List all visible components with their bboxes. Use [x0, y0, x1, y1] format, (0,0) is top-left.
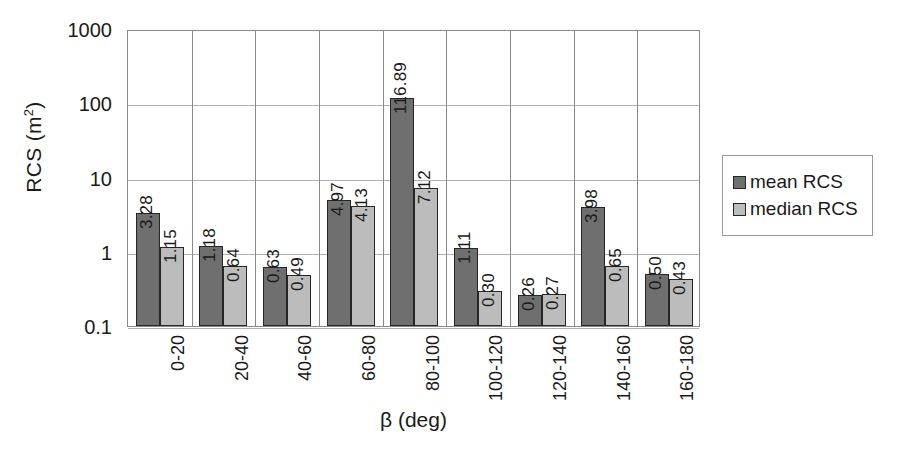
legend-label-median-rcs: median RCS: [750, 198, 858, 220]
bar-mean: [327, 200, 351, 326]
y-axis-tick-label: 0.1: [84, 316, 112, 339]
bar-value-label: 3.98: [582, 189, 602, 223]
x-axis-tick-labels: 0-2020-4040-6060-8080-100100-120120-1401…: [127, 327, 700, 407]
category-group: 1.110.30: [446, 31, 510, 326]
category-group: 116.897.12: [383, 31, 447, 326]
legend-swatch-median-rcs: [733, 203, 746, 216]
y-axis-tick-label: 100: [79, 93, 112, 116]
bar-value-label: 1.11: [455, 232, 475, 265]
bar-value-label: 0.49: [288, 257, 308, 291]
bar-value-label: 7.12: [415, 171, 435, 205]
y-axis-tick-label: 1: [101, 241, 112, 264]
x-axis-tick-label: 140-160: [614, 335, 635, 401]
x-axis-tick-label: 40-60: [295, 335, 316, 381]
bar-value-label: 4.97: [328, 182, 348, 216]
bar-value-label: 116.89: [391, 62, 411, 114]
x-axis-tick-label: 160-180: [677, 335, 698, 401]
legend: mean RCS median RCS: [722, 155, 873, 236]
y-axis-tick-labels: 10001001010.1: [32, 30, 120, 327]
x-axis-title: β (deg): [127, 408, 700, 432]
bar-value-label: 1.18: [200, 229, 220, 263]
bar-value-label: 0.65: [606, 248, 626, 282]
category-group: 0.500.43: [637, 31, 701, 326]
bar-mean: [136, 213, 160, 326]
category-group: 0.630.49: [255, 31, 319, 326]
legend-item-median-rcs[interactable]: median RCS: [733, 198, 858, 220]
legend-item-mean-rcs[interactable]: mean RCS: [733, 171, 858, 193]
bar-mean: [581, 207, 605, 326]
x-axis-tick-label: 0-20: [168, 335, 189, 371]
bar-value-label: 4.13: [352, 188, 372, 222]
bar-value-label: 0.30: [479, 273, 499, 307]
bar-value-label: 0.26: [519, 277, 539, 311]
bar-value-label: 0.43: [670, 261, 690, 295]
category-group: 0.260.27: [510, 31, 574, 326]
x-axis-tick-label: 80-100: [423, 335, 444, 391]
category-group: 1.180.64: [192, 31, 256, 326]
x-axis-tick-label: 60-80: [359, 335, 380, 381]
category-group: 3.980.65: [574, 31, 638, 326]
plot-area: 3.281.151.180.640.630.494.974.13116.897.…: [127, 30, 700, 327]
bar-mean: [390, 98, 414, 326]
x-axis-tick-label: 100-120: [486, 335, 507, 401]
category-group: 4.974.13: [319, 31, 383, 326]
bar-value-label: 1.15: [161, 229, 181, 263]
category-group: 3.281.15: [128, 31, 192, 326]
bar-value-label: 0.64: [224, 248, 244, 282]
x-axis-tick-label: 20-40: [232, 335, 253, 381]
bar-value-label: 0.63: [264, 249, 284, 283]
y-axis-tick-label: 1000: [68, 19, 113, 42]
bar-median: [351, 206, 375, 326]
bar-value-label: 0.27: [543, 276, 563, 310]
y-axis-tick-label: 10: [90, 167, 112, 190]
rcs-bar-chart: RCS (m2) 10001001010.1 3.281.151.180.640…: [0, 0, 905, 459]
bar-median: [414, 188, 438, 326]
x-axis-tick-label: 120-140: [550, 335, 571, 401]
legend-swatch-mean-rcs: [733, 176, 746, 189]
legend-label-mean-rcs: mean RCS: [750, 171, 843, 193]
bar-value-label: 0.50: [646, 256, 666, 290]
bar-value-label: 3.28: [137, 196, 157, 230]
